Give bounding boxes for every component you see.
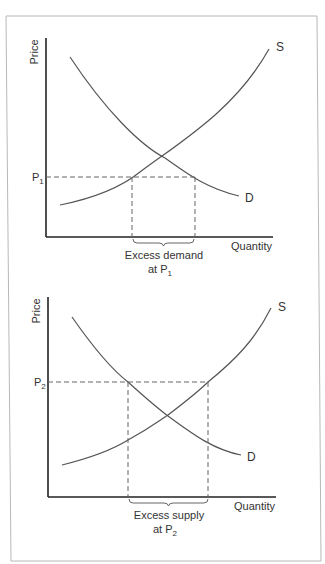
- supply-curve: [62, 308, 271, 465]
- diagram-excess-supply: Price Quantity S D P2 Excess supply at P…: [30, 297, 286, 538]
- annotation-line2: at P2: [153, 523, 178, 538]
- price-p1-label: P1: [32, 171, 44, 186]
- annotation-line2: at P1: [148, 263, 173, 278]
- price-p2-label: P2: [34, 376, 46, 391]
- excess-demand-brace: [133, 239, 194, 246]
- demand-label: D: [247, 450, 256, 464]
- supply-curve: [60, 49, 269, 205]
- demand-curve: [70, 57, 239, 196]
- excess-supply-brace: [129, 499, 208, 506]
- demand-curve: [72, 317, 241, 455]
- supply-label: S: [276, 40, 284, 54]
- demand-label: D: [245, 191, 254, 205]
- diagram-excess-demand: Price Quantity S D P1 Excess demand at P…: [28, 38, 284, 278]
- supply-demand-figure: Price Quantity S D P1 Excess demand at P…: [0, 0, 325, 564]
- y-axis-label: Price: [28, 39, 40, 64]
- annotation-line1: Excess demand: [125, 249, 203, 261]
- annotation-line1: Excess supply: [134, 509, 205, 521]
- y-axis-label: Price: [30, 298, 42, 323]
- supply-label: S: [278, 300, 286, 314]
- x-axis-label: Quantity: [231, 240, 272, 252]
- figure-frame: [6, 16, 321, 561]
- x-axis-label: Quantity: [234, 500, 275, 512]
